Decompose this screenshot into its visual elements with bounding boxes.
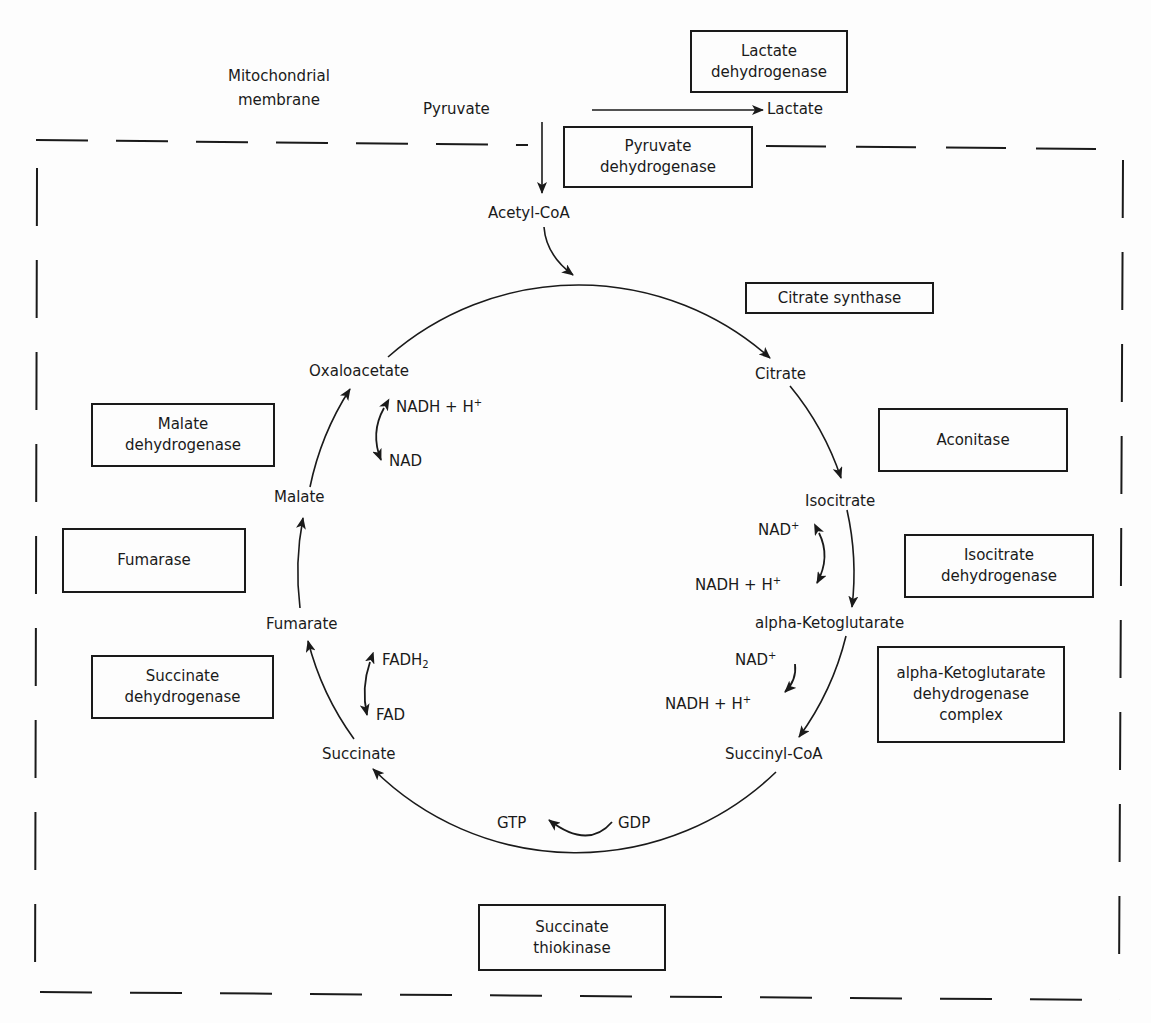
enzyme-label: Lactate (711, 41, 827, 62)
enzyme-label: dehydrogenase (124, 687, 240, 708)
isocitrate-nad-label: NAD+ (758, 520, 799, 540)
malate-nadh-label: NADH + H+ (396, 397, 482, 417)
malate-label: Malate (274, 487, 325, 507)
akg-nadh-label: NADH + H+ (665, 694, 751, 714)
citrate-label: Citrate (755, 364, 806, 384)
isocitrate-nadh-sup: + (773, 575, 781, 586)
oxaloacetate-label: Oxaloacetate (309, 361, 409, 381)
isocitrate-nad-text: NAD (758, 521, 791, 539)
gdp-to-gtp-arrow (549, 820, 612, 836)
fadh2-sub: 2 (422, 659, 428, 670)
pyruvate-label: Pyruvate (423, 99, 490, 119)
enzyme-label: dehydrogenase (896, 684, 1045, 705)
enzyme-label: thiokinase (533, 938, 610, 959)
fad-label: FAD (376, 705, 405, 725)
enzyme-box-isocitrate-dehydrogenase: Isocitratedehydrogenase (904, 534, 1094, 598)
enzyme-box-succinate-dehydrogenase: Succinatedehydrogenase (91, 655, 274, 719)
akg-nad-arrow (785, 664, 795, 692)
akg-nad-label: NAD+ (735, 650, 776, 670)
enzyme-box-malate-dehydrogenase: Malatedehydrogenase (91, 403, 275, 467)
malate-nad-label: NAD (389, 451, 422, 471)
gtp-label: GTP (497, 813, 526, 833)
enzyme-label: Isocitrate (941, 545, 1057, 566)
fad-exchange-arrow (365, 662, 370, 715)
malate-nadh-text: NADH + H (396, 398, 474, 416)
fadh2-label: FADH2 (382, 650, 429, 670)
succinate-label: Succinate (322, 744, 396, 764)
isocitrate-nad-exchange-arrow (817, 533, 825, 583)
membrane-label-line1: Mitochondrial (228, 64, 330, 88)
acetylcoa-entry-arrow (544, 227, 573, 275)
enzyme-box-succinate-thiokinase: Succinatethiokinase (478, 904, 666, 971)
isocitrate-label: Isocitrate (805, 491, 875, 511)
isocitrate-nad-sup: + (791, 520, 799, 531)
enzyme-box-alpha-ketoglutarate-dehydrogenase-complex: alpha-Ketoglutaratedehydrogenasecomplex (877, 646, 1065, 743)
enzyme-box-citrate-synthase: Citrate synthase (745, 282, 934, 314)
enzyme-label: Malate (125, 414, 241, 435)
succinyl-coa-label: Succinyl-CoA (725, 744, 823, 764)
enzyme-label: dehydrogenase (125, 435, 241, 456)
enzyme-label: alpha-Ketoglutarate (896, 663, 1045, 684)
fadh2-text: FADH (382, 651, 422, 669)
malate-nadh-sup: + (474, 397, 482, 408)
isocitrate-nadh-label: NADH + H+ (695, 575, 781, 595)
akg-nad-text: NAD (735, 651, 768, 669)
alpha-ketoglutarate-label: alpha-Ketoglutarate (755, 613, 904, 633)
enzyme-label: Aconitase (936, 430, 1009, 451)
enzyme-box-aconitase: Aconitase (878, 408, 1068, 472)
membrane-label: Mitochondrial membrane (228, 64, 330, 112)
akg-nad-sup: + (768, 650, 776, 661)
fumarate-label: Fumarate (266, 614, 338, 634)
enzyme-label: dehydrogenase (600, 157, 716, 178)
malate-nad-exchange-arrow (376, 408, 384, 460)
lactate-label: Lactate (767, 99, 823, 119)
enzyme-box-fumarase: Fumarase (62, 528, 246, 593)
enzyme-label: Succinate (124, 666, 240, 687)
acetyl-coa-label: Acetyl-CoA (488, 203, 570, 223)
enzyme-box-lactate-dehydrogenase: Lactatedehydrogenase (690, 30, 848, 93)
enzyme-label: Fumarase (117, 550, 191, 571)
krebs-cycle-diagram: Mitochondrial membrane Pyruvate Lactate … (0, 0, 1151, 1023)
akg-nadh-sup: + (743, 694, 751, 705)
gdp-label: GDP (618, 813, 650, 833)
akg-nadh-text: NADH + H (665, 695, 743, 713)
enzyme-label: dehydrogenase (711, 62, 827, 83)
membrane-label-line2: membrane (228, 88, 330, 112)
enzyme-label: Citrate synthase (778, 288, 902, 309)
enzyme-label: Pyruvate (600, 136, 716, 157)
enzyme-label: complex (896, 705, 1045, 726)
enzyme-label: dehydrogenase (941, 566, 1057, 587)
enzyme-label: Succinate (533, 917, 610, 938)
isocitrate-nadh-text: NADH + H (695, 576, 773, 594)
enzyme-box-pyruvate-dehydrogenase: Pyruvatedehydrogenase (563, 126, 753, 188)
